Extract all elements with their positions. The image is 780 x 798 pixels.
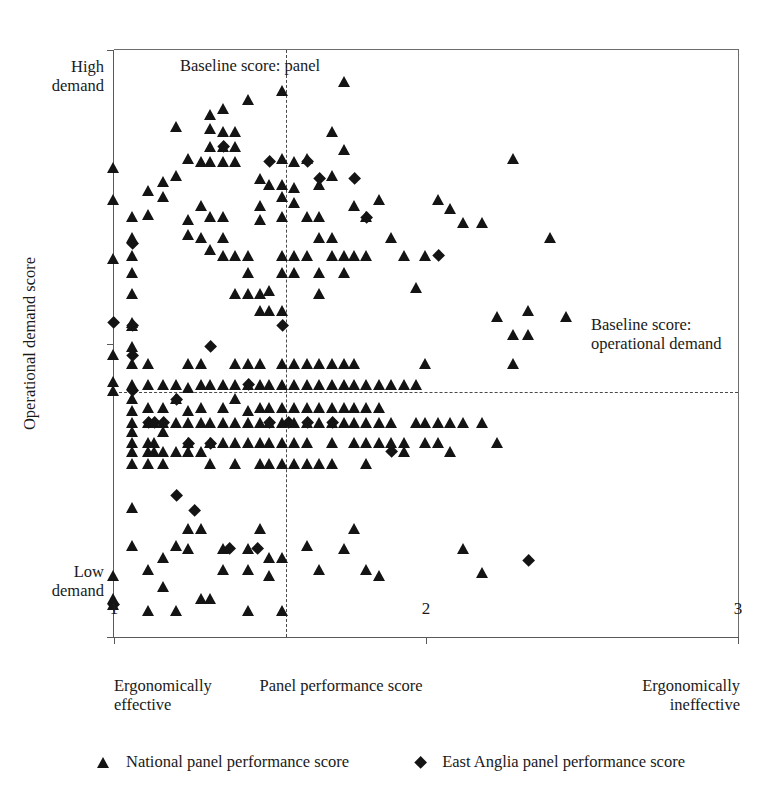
baseline-panel-line bbox=[286, 50, 287, 637]
data-point-series-0 bbox=[182, 382, 194, 393]
data-point-series-0 bbox=[444, 446, 456, 457]
data-point-series-0 bbox=[444, 417, 456, 428]
data-point-series-1 bbox=[432, 249, 445, 262]
data-point-series-0 bbox=[432, 417, 444, 428]
data-point-series-0 bbox=[313, 232, 325, 243]
data-point-series-0 bbox=[204, 244, 216, 255]
data-point-series-0 bbox=[301, 402, 313, 413]
x-tick-3 bbox=[738, 637, 739, 644]
data-point-series-0 bbox=[170, 170, 182, 181]
data-point-series-0 bbox=[276, 85, 288, 96]
data-point-series-0 bbox=[157, 581, 169, 592]
legend-item-0[interactable]: National panel performance score bbox=[95, 752, 349, 772]
data-point-series-0 bbox=[288, 379, 300, 390]
data-point-series-0 bbox=[301, 458, 313, 469]
data-point-series-1 bbox=[170, 490, 183, 503]
x-axis-title: Panel performance score bbox=[259, 676, 422, 695]
data-point-series-0 bbox=[182, 214, 194, 225]
data-point-series-0 bbox=[348, 523, 360, 534]
data-point-series-0 bbox=[288, 437, 300, 448]
data-point-series-0 bbox=[348, 250, 360, 261]
data-point-series-0 bbox=[313, 417, 325, 428]
data-point-series-0 bbox=[313, 564, 325, 575]
baseline-demand-note-line1: Baseline score: bbox=[591, 315, 722, 334]
data-point-series-0 bbox=[254, 200, 266, 211]
data-point-series-0 bbox=[476, 417, 488, 428]
x-axis-high-line1: Ergonomically bbox=[640, 676, 740, 695]
data-point-series-0 bbox=[263, 379, 275, 390]
data-point-series-0 bbox=[157, 379, 169, 390]
data-point-series-0 bbox=[373, 570, 385, 581]
data-point-series-0 bbox=[398, 379, 410, 390]
data-point-series-0 bbox=[126, 458, 138, 469]
data-point-series-0 bbox=[301, 437, 313, 448]
y-axis-low-line2: demand bbox=[24, 581, 104, 600]
data-point-series-0 bbox=[204, 141, 216, 152]
data-point-series-0 bbox=[276, 250, 288, 261]
data-point-series-0 bbox=[107, 385, 119, 396]
data-point-series-0 bbox=[242, 267, 254, 278]
x-axis-low-descriptor: Ergonomically effective bbox=[114, 676, 212, 715]
data-point-series-0 bbox=[170, 379, 182, 390]
data-point-series-0 bbox=[263, 179, 275, 190]
data-point-series-0 bbox=[242, 250, 254, 261]
data-point-series-0 bbox=[126, 502, 138, 513]
y-axis-high-line1: High bbox=[32, 57, 104, 76]
data-point-series-0 bbox=[204, 109, 216, 120]
data-point-series-0 bbox=[229, 156, 241, 167]
data-point-series-0 bbox=[217, 379, 229, 390]
data-point-series-0 bbox=[398, 250, 410, 261]
data-point-series-0 bbox=[126, 267, 138, 278]
y-tick-2 bbox=[107, 344, 114, 345]
data-point-series-0 bbox=[288, 358, 300, 369]
x-tick-label-3: 3 bbox=[734, 600, 743, 617]
data-point-series-0 bbox=[457, 417, 469, 428]
data-point-series-0 bbox=[182, 543, 194, 554]
data-point-series-0 bbox=[410, 282, 422, 293]
data-point-series-0 bbox=[432, 194, 444, 205]
y-axis-title: Operational demand score bbox=[20, 50, 40, 637]
data-point-series-0 bbox=[182, 229, 194, 240]
data-point-series-0 bbox=[507, 153, 519, 164]
data-point-series-0 bbox=[229, 288, 241, 299]
data-point-series-0 bbox=[204, 123, 216, 134]
data-point-series-0 bbox=[217, 156, 229, 167]
data-point-series-0 bbox=[242, 288, 254, 299]
data-point-series-0 bbox=[276, 458, 288, 469]
data-point-series-0 bbox=[326, 437, 338, 448]
data-point-series-0 bbox=[126, 288, 138, 299]
data-point-series-0 bbox=[491, 311, 503, 322]
data-point-series-0 bbox=[157, 458, 169, 469]
data-point-series-0 bbox=[229, 379, 241, 390]
data-point-series-0 bbox=[348, 379, 360, 390]
plot-right-spine bbox=[738, 49, 739, 637]
data-point-series-0 bbox=[204, 156, 216, 167]
data-point-series-0 bbox=[276, 402, 288, 413]
data-point-series-0 bbox=[276, 191, 288, 202]
data-point-series-0 bbox=[142, 358, 154, 369]
data-point-series-0 bbox=[276, 305, 288, 316]
data-point-series-0 bbox=[419, 358, 431, 369]
data-point-series-0 bbox=[507, 329, 519, 340]
data-point-series-0 bbox=[126, 446, 138, 457]
data-point-series-0 bbox=[263, 402, 275, 413]
data-point-series-0 bbox=[142, 564, 154, 575]
data-point-series-0 bbox=[242, 417, 254, 428]
x-axis-low-line2: effective bbox=[114, 695, 212, 714]
y-axis-high-descriptor: High demand bbox=[32, 57, 104, 96]
triangle-marker-icon bbox=[95, 754, 113, 770]
data-point-series-0 bbox=[301, 540, 313, 551]
data-point-series-0 bbox=[229, 358, 241, 369]
data-point-series-0 bbox=[263, 570, 275, 581]
legend-item-1[interactable]: East Anglia panel performance score bbox=[411, 752, 685, 772]
data-point-series-0 bbox=[522, 329, 534, 340]
data-point-series-0 bbox=[522, 305, 534, 316]
data-point-series-0 bbox=[476, 217, 488, 228]
data-point-series-0 bbox=[195, 358, 207, 369]
data-point-series-0 bbox=[326, 402, 338, 413]
data-point-series-0 bbox=[242, 358, 254, 369]
data-point-series-0 bbox=[126, 250, 138, 261]
data-point-series-0 bbox=[276, 437, 288, 448]
data-point-series-0 bbox=[385, 379, 397, 390]
data-point-series-0 bbox=[263, 552, 275, 563]
